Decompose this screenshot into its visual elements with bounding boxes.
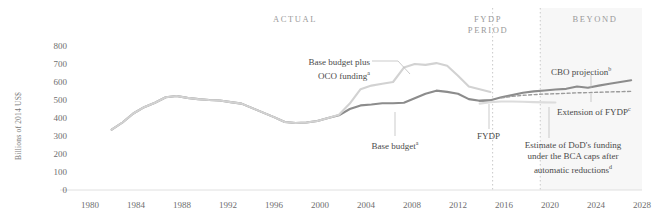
annotation-base-plus-oco: Base budget plus OCO fundinga (285, 57, 370, 82)
x-tick-1992: 1992 (208, 200, 248, 210)
y-tick-0: 0 (37, 185, 67, 195)
annotation-base-plus-oco-line2: OCO fundinga (285, 68, 370, 82)
y-tick-700: 700 (37, 59, 67, 69)
x-tick-2004: 2004 (346, 200, 386, 210)
band-label-fydp-line2: PERIOD (458, 25, 518, 36)
footnote-marker-a1: a (367, 70, 370, 76)
footnote-marker-a2: a (416, 140, 419, 146)
y-tick-600: 600 (37, 77, 67, 87)
series-line-estimate-of-dod-s-funding-under-the-bca-caps-after-automatic-reductions (480, 101, 556, 103)
y-axis-title: Billions of 2014 US$ (14, 92, 23, 160)
x-tick-2012: 2012 (438, 200, 478, 210)
y-tick-300: 300 (37, 131, 67, 141)
x-tick-2020: 2020 (530, 200, 570, 210)
footnote-marker-c: c (628, 106, 631, 112)
x-tick-2016: 2016 (484, 200, 524, 210)
chart-container: Billions of 2014 US$ 800 700 600 500 400… (0, 0, 667, 221)
x-tick-1984: 1984 (116, 200, 156, 210)
x-tick-1988: 1988 (162, 200, 202, 210)
y-tick-500: 500 (37, 95, 67, 105)
x-tick-2024: 2024 (576, 200, 616, 210)
x-tick-2028: 2028 (622, 200, 662, 210)
y-tick-800: 800 (37, 41, 67, 51)
band-label-fydp-line1: FYDP (458, 14, 518, 25)
x-tick-2000: 2000 (300, 200, 340, 210)
footnote-marker-d: d (609, 164, 612, 170)
annotation-bca-line1: Estimate of DoD's funding (480, 140, 666, 151)
x-tick-2008: 2008 (392, 200, 432, 210)
x-tick-1980: 1980 (70, 200, 110, 210)
x-tick-1996: 1996 (254, 200, 294, 210)
annotation-bca-line2: under the BCA caps after (480, 151, 666, 162)
y-tick-200: 200 (37, 149, 67, 159)
band-label-actual: ACTUAL (235, 14, 355, 24)
annotation-base-budget: Base budgeta (350, 138, 440, 152)
annotation-bca-line3: automatic reductionsd (480, 162, 666, 176)
annotation-cbo-projection: CBO projectionb (551, 64, 611, 78)
y-tick-400: 400 (37, 113, 67, 123)
footnote-marker-b: b (608, 66, 611, 72)
band-label-beyond: BEYOND (545, 14, 645, 24)
y-tick-100: 100 (37, 167, 67, 177)
band-label-fydp-period: FYDP PERIOD (458, 14, 518, 36)
leader-base-plus-oco (372, 61, 410, 74)
annotation-base-plus-oco-line1: Base budget plus (285, 57, 370, 68)
annotation-bca-estimate: Estimate of DoD's funding under the BCA … (480, 140, 666, 176)
annotation-extension-of-fydp: Extension of FYDPc (557, 104, 631, 118)
